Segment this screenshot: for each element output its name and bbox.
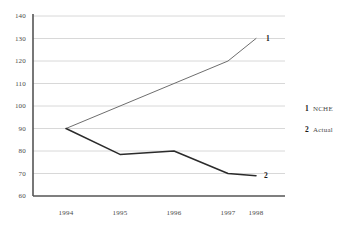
y-tick-130: 130 [4,35,26,43]
y-tick-100: 100 [4,102,26,110]
series-endpoint-label-actual: 2 [264,171,268,180]
y-tick-140: 140 [4,12,26,20]
x-tick-1998: 1998 [236,209,276,217]
y-tick-60: 60 [4,192,26,200]
legend-label-actual: Actual [313,126,333,134]
x-tick-1994: 1994 [46,209,86,217]
legend-key-nche: 1 [305,104,313,113]
chart-svg [0,0,353,236]
legend-item-actual: 2 Actual [305,125,353,134]
legend-label-nche: NCHE [313,105,333,113]
gridlines [33,16,285,174]
legend-key-actual: 2 [305,125,313,134]
series-line-actual [66,129,256,176]
y-tick-110: 110 [4,80,26,88]
x-tick-1996: 1996 [154,209,194,217]
legend-item-nche: 1 NCHE [305,104,353,113]
y-tick-120: 120 [4,57,26,65]
y-tick-90: 90 [4,125,26,133]
chart-legend: 1 NCHE 2 Actual [305,104,353,146]
y-tick-70: 70 [4,170,26,178]
series-endpoint-label-nche: 1 [266,34,270,43]
y-tick-80: 80 [4,147,26,155]
x-tick-1995: 1995 [100,209,140,217]
chart-figure: 140 130 120 110 100 90 80 70 60 1994 199… [0,0,353,236]
plot-area [0,0,353,236]
